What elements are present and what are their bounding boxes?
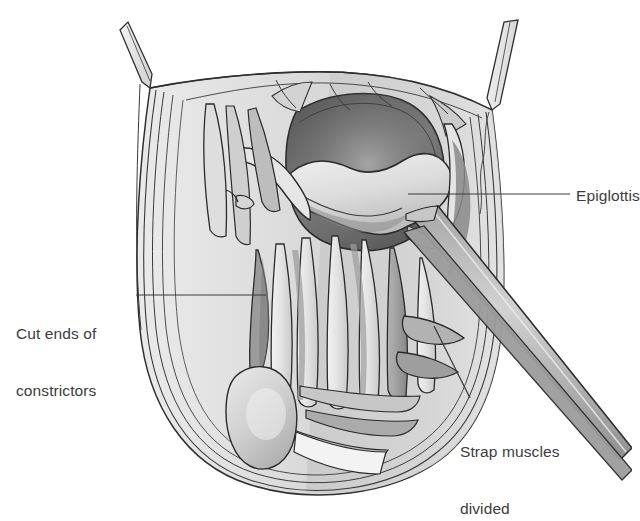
label-epiglottis: Epiglottis xyxy=(576,186,640,205)
retracted-flap-right xyxy=(487,20,518,110)
label-strap-muscles-divided: Strap muscles divided xyxy=(460,404,560,521)
label-line: constrictors xyxy=(16,381,96,400)
inferior-bulb-highlight xyxy=(246,388,286,440)
label-line: divided xyxy=(460,499,560,518)
label-cut-ends-of-constrictors: Cut ends of constrictors xyxy=(16,286,96,438)
retracted-flap-left xyxy=(120,22,152,88)
label-line: Strap muscles xyxy=(460,442,560,461)
label-line: Cut ends of xyxy=(16,324,96,343)
